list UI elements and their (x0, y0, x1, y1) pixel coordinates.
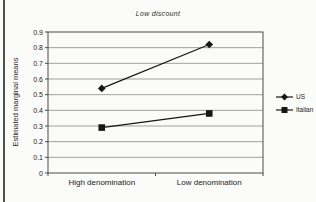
chart-figure: Low discount Estimated marginal means 00… (0, 0, 316, 202)
y-tick-label: 0.5 (33, 91, 43, 98)
y-tick-label: 0.4 (33, 107, 43, 114)
y-tick-label: 0.1 (33, 154, 43, 161)
y-tick-label: 0.6 (33, 76, 43, 83)
plot-area: 00.10.20.30.40.50.60.70.80.9High denomin… (0, 0, 316, 202)
data-marker-square (98, 124, 105, 131)
data-marker-square (206, 110, 213, 117)
series-line-us (102, 45, 210, 89)
data-marker-diamond (205, 41, 213, 49)
legend: US Italian (276, 90, 313, 116)
y-tick-label: 0.9 (33, 29, 43, 36)
legend-item-us: US (276, 90, 313, 103)
x-category-label: High denomination (68, 178, 135, 187)
y-tick-label: 0.8 (33, 44, 43, 51)
legend-marker-square-icon (276, 105, 293, 115)
y-tick-label: 0 (39, 170, 43, 177)
series-line-italian (102, 113, 210, 127)
data-marker-diamond (98, 85, 106, 93)
legend-item-italian: Italian (276, 103, 313, 116)
y-tick-label: 0.3 (33, 123, 43, 130)
legend-label-us: US (296, 93, 305, 100)
x-category-label: Low denomination (177, 178, 242, 187)
legend-marker-diamond-icon (276, 92, 293, 102)
y-tick-label: 0.2 (33, 138, 43, 145)
legend-label-italian: Italian (296, 106, 313, 113)
y-tick-label: 0.7 (33, 60, 43, 67)
plot-border (48, 32, 263, 173)
